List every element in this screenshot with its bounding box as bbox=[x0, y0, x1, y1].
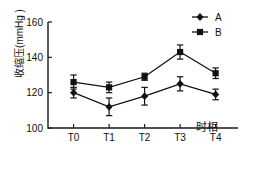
x-tick-label: T3 bbox=[174, 132, 186, 143]
data-point-square bbox=[177, 49, 183, 55]
data-point-diamond bbox=[177, 80, 184, 88]
data-series bbox=[70, 45, 219, 116]
chart-legend: AB bbox=[192, 12, 222, 38]
y-tick-label: 100 bbox=[26, 123, 43, 134]
legend-item-A[interactable]: A bbox=[192, 12, 222, 23]
x-tick-label: T1 bbox=[103, 132, 115, 143]
series-line bbox=[74, 52, 216, 87]
line-chart-plot: 100120140160 T0T1T2T3T4 AB bbox=[0, 0, 260, 171]
legend-item-B[interactable]: B bbox=[192, 27, 222, 38]
y-tick-label: 120 bbox=[26, 87, 43, 98]
legend-label: B bbox=[215, 27, 222, 38]
y-tick-label: 160 bbox=[26, 17, 43, 28]
data-point-square bbox=[141, 74, 147, 80]
x-axis-title: 时相 bbox=[196, 118, 218, 134]
data-point-square bbox=[106, 84, 112, 90]
series-A bbox=[70, 77, 219, 116]
x-tick-label: T2 bbox=[139, 132, 151, 143]
series-B bbox=[70, 45, 218, 93]
data-point-square bbox=[213, 70, 219, 76]
chart-container: 收缩压(mmHg ) 时相 100120140160 T0T1T2T3T4 AB bbox=[0, 0, 260, 171]
data-point-square bbox=[70, 79, 76, 85]
y-axis-title: 收缩压(mmHg ) bbox=[11, 0, 26, 92]
data-point-diamond bbox=[196, 13, 203, 21]
data-point-diamond bbox=[212, 91, 219, 99]
legend-label: A bbox=[215, 12, 222, 23]
data-point-square bbox=[197, 29, 203, 35]
y-tick-labels: 100120140160 bbox=[26, 17, 43, 134]
data-point-diamond bbox=[70, 89, 77, 97]
data-point-diamond bbox=[141, 92, 148, 100]
x-tick-label: T0 bbox=[68, 132, 80, 143]
data-point-diamond bbox=[105, 103, 112, 111]
y-tick-label: 140 bbox=[26, 52, 43, 63]
